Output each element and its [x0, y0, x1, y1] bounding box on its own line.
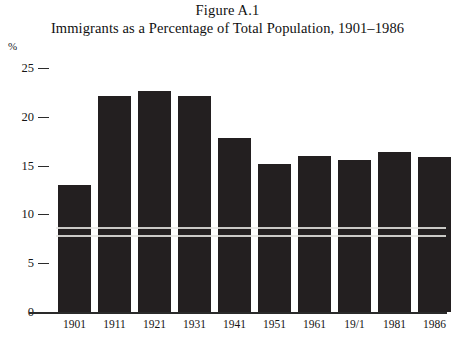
- x-axis-tick-label: 1911: [95, 317, 135, 331]
- y-axis-tick-mark: [38, 117, 49, 118]
- y-axis-tick-mark: [38, 68, 49, 69]
- y-axis-tick-label: 10: [22, 207, 35, 221]
- bar: [58, 185, 91, 312]
- bar: [98, 96, 131, 312]
- bar: [298, 156, 331, 312]
- bar: [258, 164, 291, 312]
- x-axis-tick-label: 1931: [175, 317, 215, 331]
- bar: [218, 138, 251, 312]
- bar: [378, 152, 411, 312]
- x-axis-tick-label: 1901: [55, 317, 95, 331]
- x-axis-tick-label: 1941: [215, 317, 255, 331]
- x-axis-tick-label: 1921: [135, 317, 175, 331]
- x-axis-tick-label: 1951: [255, 317, 295, 331]
- bar: [338, 160, 371, 312]
- bar: [138, 91, 171, 312]
- y-axis-tick: 20: [0, 110, 56, 124]
- bar: [178, 96, 211, 312]
- x-axis-tick-label: 1986: [415, 317, 455, 331]
- y-axis-tick: 5: [0, 256, 56, 270]
- y-axis-tick-label: 25: [22, 61, 35, 75]
- x-axis-tick-label: 1981: [375, 317, 415, 331]
- y-axis-tick-label: 15: [22, 159, 35, 173]
- x-axis-tick-label: 1961: [295, 317, 335, 331]
- y-axis-tick-mark: [38, 166, 49, 167]
- x-axis-tick-label: 19/1: [335, 317, 375, 331]
- y-axis-tick: 15: [0, 159, 56, 173]
- x-axis-baseline: [29, 312, 447, 314]
- y-axis-tick: 10: [0, 207, 56, 221]
- y-axis-tick-label: 5: [28, 256, 34, 270]
- y-axis-tick-label: 20: [22, 110, 35, 124]
- y-axis-tick: 25: [0, 61, 56, 75]
- y-axis-tick-mark: [38, 214, 49, 215]
- y-axis-tick-mark: [38, 263, 49, 264]
- bar-chart-plot-area: 0510152025 19011911192119311941195119611…: [0, 0, 455, 339]
- bar: [418, 157, 451, 312]
